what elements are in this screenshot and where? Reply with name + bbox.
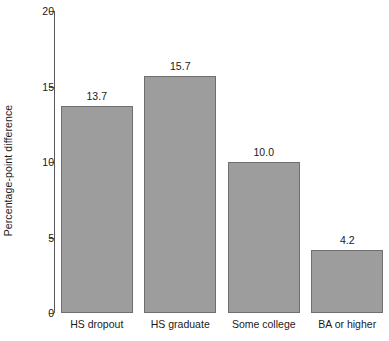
- y-tick-label: 0: [10, 307, 54, 319]
- y-tick-label: 15: [10, 81, 54, 93]
- x-axis-label: Some college: [222, 318, 306, 330]
- y-tick-0: 0: [0, 313, 54, 314]
- y-tick-5: 5: [0, 238, 54, 239]
- bar: [144, 76, 216, 313]
- y-tick-15: 15: [0, 87, 54, 88]
- y-tick-label: 10: [10, 156, 54, 168]
- bar-value-label: 13.7: [61, 90, 133, 102]
- x-axis-label: BA or higher: [306, 318, 389, 330]
- x-axis-label: HS graduate: [139, 318, 223, 330]
- y-axis-title: Percentage-point difference: [0, 0, 16, 341]
- bar: [228, 162, 300, 313]
- bar-value-label: 4.2: [311, 234, 383, 246]
- bar-value-label: 10.0: [228, 146, 300, 158]
- bar: [311, 250, 383, 313]
- x-axis-label: HS dropout: [55, 318, 139, 330]
- bar: [61, 106, 133, 313]
- y-tick-10: 10: [0, 162, 54, 163]
- plot-area: 13.715.710.04.2: [55, 11, 389, 313]
- bar-chart: Percentage-point difference 05101520 13.…: [0, 0, 389, 341]
- y-tick-20: 20: [0, 11, 54, 12]
- y-tick-label: 5: [10, 232, 54, 244]
- y-tick-label: 20: [10, 5, 54, 17]
- bar-value-label: 15.7: [144, 60, 216, 72]
